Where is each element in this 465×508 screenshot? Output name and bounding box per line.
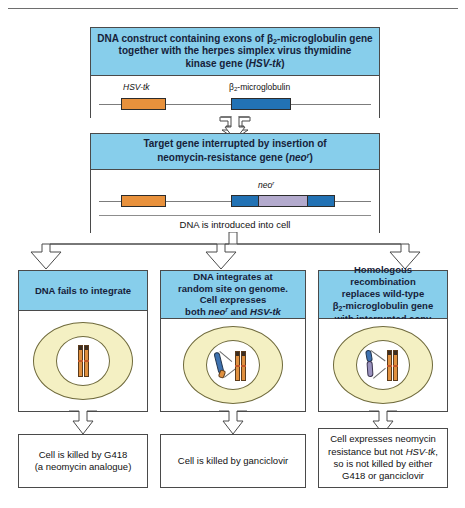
- result-line-3b: resistance but not HSV-tk,: [328, 446, 438, 457]
- step1-heading: DNA construct containing exons of β2-mic…: [91, 28, 379, 76]
- step2-construct-body: neor DNA is introduced into cell: [91, 170, 379, 233]
- chromosome-tip-3b: [394, 351, 397, 355]
- result-line-3c: so is not killed by either: [334, 458, 433, 469]
- top-divider-rule: [8, 8, 458, 9]
- hsv-tk-gene-box-2: [121, 195, 166, 207]
- chromosome-centromere-3a: [387, 365, 392, 367]
- outcome-panel-fails-to-integrate: DNA fails to integrate: [18, 270, 148, 412]
- outcome2-line3: Cell expresses: [200, 294, 267, 305]
- chromosome-centromere-1b: [84, 360, 89, 362]
- nucleus-2: [206, 340, 260, 390]
- outcome-heading-text-1: DNA fails to integrate: [35, 285, 131, 297]
- result-line-3d: G418 or ganciclovir: [342, 470, 424, 481]
- chromosome-centromere-3b: [393, 365, 398, 367]
- chromosome-wildtype-b-3: [393, 350, 398, 381]
- step2-panel: Target gene interrupted by insertion of …: [90, 133, 380, 233]
- dna-introduced-caption: DNA is introduced into cell: [91, 219, 379, 230]
- hsv-tk-gene-label: HSV-tk: [123, 82, 150, 92]
- outcome-heading-fails-to-integrate: DNA fails to integrate: [19, 271, 147, 311]
- step1-panel: DNA construct containing exons of β2-mic…: [90, 27, 380, 118]
- outcome2-line4: both neor and HSV-tk: [185, 306, 281, 317]
- b2m-gene-box-left-exon: [231, 195, 259, 207]
- cell-illustration-2: [183, 326, 283, 404]
- outcome2-line2: random site on genome.: [178, 283, 288, 294]
- neo-r-label: neor: [258, 179, 274, 190]
- outcome3-line1: Homologous recombination: [350, 264, 415, 287]
- outcome-panel-homologous-recombination: Homologous recombination replaces wild-t…: [318, 270, 448, 412]
- chromosome-centromere-2b: [241, 365, 246, 367]
- chromosome-centromere-1a: [78, 360, 83, 362]
- b2m-gene-box-right-exon: [307, 195, 335, 207]
- result-box-homologous-recombination: Cell expresses neomycin resistance but n…: [318, 428, 448, 488]
- outcome-cell-body-2: [161, 319, 305, 411]
- result-line-1a: Cell is killed by G418: [39, 449, 128, 460]
- step2-dna-track: neor DNA is introduced into cell: [91, 170, 379, 233]
- outcome-heading-random-integration: DNA integrates at random site on genome.…: [161, 271, 305, 319]
- step2-heading-line1: Target gene interrupted by insertion of: [143, 138, 326, 149]
- interrupted-copy-neo-3: [366, 361, 373, 377]
- outcome-panel-random-integration: DNA integrates at random site on genome.…: [160, 270, 306, 412]
- arrow-outcome1-to-result1: [63, 410, 103, 436]
- result-box-random-integration: Cell is killed by ganciclovir: [160, 434, 306, 488]
- outcome-cell-body-1: [19, 311, 147, 411]
- chromosome-wildtype-a-2: [235, 351, 240, 381]
- outcome-heading-homologous-recombination: Homologous recombination replaces wild-t…: [319, 271, 447, 319]
- chromosome-wildtype-a-3: [387, 350, 392, 381]
- step1-heading-line1: DNA construct containing exons of β2-mic…: [97, 33, 372, 44]
- diagram-canvas: DNA construct containing exons of β2-mic…: [0, 0, 465, 508]
- step1-construct-body: HSV-tk β2-microglobulin: [91, 76, 379, 118]
- hsv-tk-gene-box: [121, 98, 166, 110]
- outcome2-line1: DNA integrates at: [193, 271, 272, 282]
- step1-dna-track: HSV-tk β2-microglobulin: [91, 76, 379, 118]
- chromosome-wildtype-b-1: [84, 345, 89, 377]
- chromosome-tip-3a: [388, 351, 391, 355]
- b2m-gene-box: [231, 98, 291, 110]
- step2-separator-rule: [99, 215, 371, 216]
- b2m-gene-label: β2-microglobulin: [229, 82, 290, 92]
- result-line-3a: Cell expresses neomycin: [330, 433, 436, 444]
- chromosome-centromere-2a: [235, 365, 240, 367]
- arrow-outcome2-to-result2: [213, 410, 253, 436]
- step2-heading: Target gene interrupted by insertion of …: [91, 134, 379, 170]
- nucleus-3: [356, 340, 410, 390]
- cell-illustration-1: [33, 322, 133, 400]
- chromosome-tip-1b: [85, 346, 88, 350]
- step1-heading-line3: kinase gene (HSV-tk): [185, 58, 284, 69]
- chromosome-wildtype-a-1: [78, 345, 83, 377]
- result-box-fails-to-integrate: Cell is killed by G418 (a neomycin analo…: [18, 434, 148, 488]
- result-line-2a: Cell is killed by ganciclovir: [178, 455, 288, 467]
- cell-illustration-3: [333, 326, 433, 404]
- chromosome-wildtype-b-2: [241, 351, 246, 381]
- nucleus-1: [56, 336, 110, 386]
- chromosome-tip-2b: [242, 352, 245, 356]
- chromosome-tip-1a: [79, 346, 82, 350]
- outcome-cell-body-3: [319, 319, 447, 411]
- outcome3-line3: β2-microglobulin gene: [333, 300, 433, 311]
- step1-heading-line2: together with the herpes simplex virus t…: [119, 45, 352, 56]
- neo-r-insert-box: [258, 195, 308, 207]
- chromosome-tip-2a: [236, 352, 239, 356]
- step2-heading-line2: neomycin-resistance gene (neor): [157, 152, 313, 163]
- result-line-1b: (a neomycin analogue): [35, 461, 132, 472]
- outcome3-line2: replaces wild-type: [342, 288, 424, 299]
